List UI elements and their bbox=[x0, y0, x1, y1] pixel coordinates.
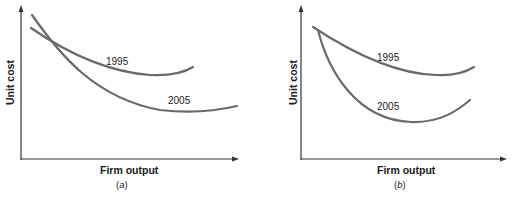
y-axis-label: Unit cost bbox=[4, 60, 16, 105]
y-axis-arrow-icon bbox=[19, 5, 24, 12]
chart-panel-b: 1995 2005 Unit cost Firm output (b) bbox=[256, 0, 513, 205]
series-label-1995: 1995 bbox=[377, 52, 399, 63]
y-axis-label: Unit cost bbox=[287, 60, 299, 105]
curve-1995-a bbox=[31, 28, 193, 75]
series-label-2005: 2005 bbox=[168, 95, 190, 106]
chart-panel-a: 1995 2005 Unit cost Firm output (a) bbox=[0, 0, 256, 205]
y-axis-arrow-icon bbox=[299, 5, 304, 12]
series-label-1995: 1995 bbox=[106, 56, 128, 67]
x-axis-label: Firm output bbox=[377, 164, 435, 176]
x-axis-arrow-icon bbox=[232, 157, 239, 162]
series-label-2005: 2005 bbox=[377, 101, 399, 112]
x-axis-arrow-icon bbox=[500, 157, 507, 162]
curve-2005-a bbox=[32, 15, 237, 112]
x-axis-label: Firm output bbox=[100, 164, 158, 176]
panel-label-a: (a) bbox=[116, 179, 128, 190]
panel-label-b: (b) bbox=[394, 179, 406, 190]
